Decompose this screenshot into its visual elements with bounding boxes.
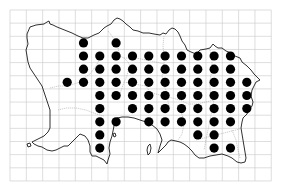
occurrence-dot bbox=[128, 65, 137, 74]
occurrence-dot bbox=[242, 78, 251, 87]
occurrence-dot bbox=[193, 51, 202, 60]
occurrence-dot bbox=[112, 91, 121, 100]
occurrence-dot bbox=[161, 104, 170, 113]
occurrence-dot bbox=[95, 65, 104, 74]
occurrence-dot bbox=[242, 91, 251, 100]
occurrence-dot bbox=[128, 104, 137, 113]
occurrence-dot bbox=[193, 78, 202, 87]
occurrence-dot bbox=[79, 51, 88, 60]
occurrence-dot bbox=[177, 104, 186, 113]
occurrence-dot bbox=[193, 91, 202, 100]
coastline bbox=[26, 18, 260, 164]
occurrence-dot bbox=[144, 104, 153, 113]
occurrence-dot bbox=[128, 91, 137, 100]
occurrence-dot bbox=[210, 130, 219, 139]
occurrence-dot bbox=[95, 51, 104, 60]
occurrence-dot bbox=[177, 117, 186, 126]
occurrence-dot bbox=[161, 78, 170, 87]
occurrence-dot bbox=[177, 51, 186, 60]
occurrence-dot bbox=[112, 38, 121, 47]
occurrence-dot bbox=[144, 78, 153, 87]
occurrence-dot bbox=[144, 65, 153, 74]
occurrence-dot bbox=[95, 104, 104, 113]
distribution-map bbox=[0, 0, 282, 194]
occurrence-dot bbox=[128, 78, 137, 87]
occurrence-dot bbox=[144, 91, 153, 100]
occurrence-dot bbox=[63, 78, 72, 87]
occurrence-dot bbox=[79, 65, 88, 74]
occurrence-dot bbox=[95, 130, 104, 139]
occurrence-dot bbox=[193, 65, 202, 74]
occurrence-dot bbox=[177, 65, 186, 74]
occurrence-dot bbox=[226, 65, 235, 74]
occurrence-dot bbox=[79, 38, 88, 47]
occurrence-dot bbox=[226, 104, 235, 113]
occurrence-dot bbox=[193, 117, 202, 126]
occurrence-dot bbox=[210, 117, 219, 126]
occurrence-dot bbox=[210, 65, 219, 74]
occurrence-dot bbox=[226, 78, 235, 87]
occurrence-dot bbox=[95, 91, 104, 100]
islet-south bbox=[147, 144, 151, 155]
occurrence-dot bbox=[95, 117, 104, 126]
occurrence-dot bbox=[95, 78, 104, 87]
occurrence-dot bbox=[210, 78, 219, 87]
occurrence-dot bbox=[177, 78, 186, 87]
occurrence-dot bbox=[112, 65, 121, 74]
occurrence-dot bbox=[210, 144, 219, 153]
occurrence-dot bbox=[161, 65, 170, 74]
occurrence-dot bbox=[128, 51, 137, 60]
occurrence-dot bbox=[210, 91, 219, 100]
occurrence-dot bbox=[144, 51, 153, 60]
occurrence-dot bbox=[95, 144, 104, 153]
occurrence-dot bbox=[226, 117, 235, 126]
occurrence-dot bbox=[226, 51, 235, 60]
occurrence-dot bbox=[112, 51, 121, 60]
occurrence-dot bbox=[193, 130, 202, 139]
occurrence-dot bbox=[161, 51, 170, 60]
islet-west bbox=[27, 143, 31, 147]
occurrence-dot bbox=[193, 104, 202, 113]
occurrence-dot bbox=[144, 117, 153, 126]
occurrence-dot bbox=[210, 51, 219, 60]
occurrence-dot bbox=[226, 144, 235, 153]
occurrence-dot bbox=[112, 117, 121, 126]
occurrence-dot bbox=[161, 91, 170, 100]
islet-bay bbox=[113, 133, 116, 137]
occurrence-dot bbox=[177, 91, 186, 100]
occurrence-dot bbox=[79, 78, 88, 87]
occurrence-dot bbox=[161, 117, 170, 126]
occurrence-dot bbox=[242, 104, 251, 113]
occurrence-dot bbox=[226, 91, 235, 100]
occurrence-dot bbox=[210, 104, 219, 113]
occurrence-dot bbox=[112, 78, 121, 87]
